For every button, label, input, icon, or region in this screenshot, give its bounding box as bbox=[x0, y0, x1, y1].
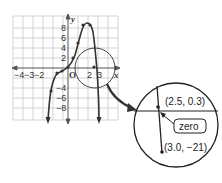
x-tick-label: 2 bbox=[87, 70, 92, 80]
magnified-callout: (2.5, 0.3) zero (3.0, −21) bbox=[134, 83, 218, 167]
y-axis-label: y bbox=[70, 14, 76, 24]
y-axis-up-arrow-icon bbox=[66, 14, 70, 19]
zero-label: zero bbox=[179, 121, 199, 132]
curve-left-arrow-icon bbox=[46, 117, 51, 124]
y-tick-label: 6 bbox=[61, 33, 66, 43]
x-tick-label: −3 bbox=[24, 70, 34, 80]
curve-right-arrow-icon bbox=[97, 117, 102, 124]
y-tick-label: −4 bbox=[56, 83, 66, 93]
x-tick-labels: −4 −3 −2 2 3 x O bbox=[14, 70, 119, 80]
curve-end-arrows bbox=[46, 117, 102, 124]
y-tick-label: −6 bbox=[56, 93, 66, 103]
y-tick-label: −8 bbox=[56, 103, 66, 113]
y-tick-label: 2 bbox=[61, 53, 66, 63]
y-tick-label: 8 bbox=[61, 23, 66, 33]
polynomial-graph-figure: −4 −3 −2 2 3 x O y 8 6 4 2 −4 −6 −8 bbox=[0, 0, 222, 183]
x-tick-label: −2 bbox=[34, 70, 44, 80]
point-2-5-dot bbox=[156, 105, 160, 109]
y-tick-label: 4 bbox=[61, 43, 66, 53]
point-bottom-label: (3.0, −21) bbox=[164, 142, 207, 153]
y-axis-down-arrow-icon bbox=[66, 119, 70, 124]
point-top-label: (2.5, 0.3) bbox=[165, 96, 205, 107]
x-tick-label: −4 bbox=[14, 70, 24, 80]
